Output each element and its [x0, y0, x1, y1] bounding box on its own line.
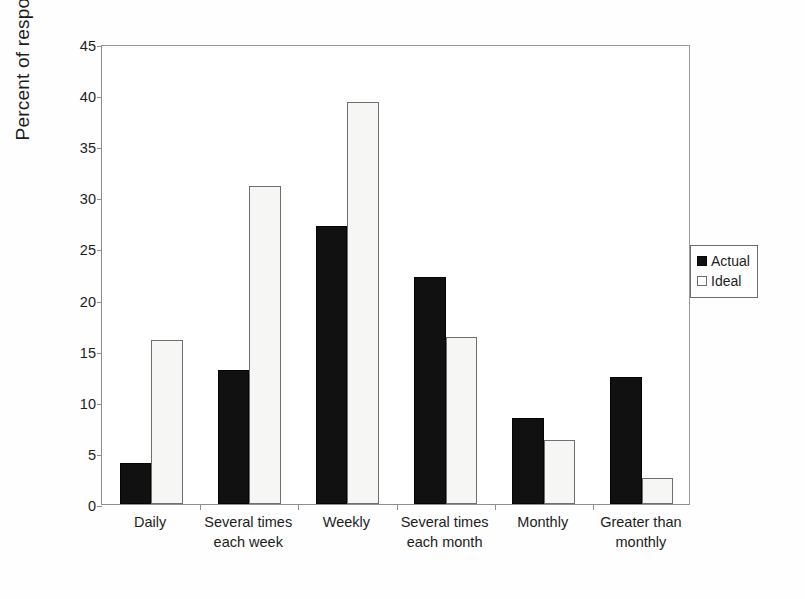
bar-ideal-3	[347, 102, 379, 504]
legend-entry-label: Actual	[711, 253, 750, 269]
bar-actual-4	[414, 277, 446, 504]
y-axis-tick-label: 5	[64, 447, 96, 463]
y-axis-tick-label: 40	[64, 89, 96, 105]
x-axis-tick-mark	[200, 504, 201, 510]
y-axis-tick-mark	[97, 353, 102, 354]
legend-entry-label: Ideal	[711, 273, 741, 289]
bar-actual-5	[512, 418, 544, 504]
x-axis-category-line: monthly	[576, 532, 706, 552]
legend-entry-ideal: Ideal	[697, 271, 750, 291]
x-axis-category-line: Weekly	[323, 514, 370, 530]
y-axis-tick-mark	[97, 148, 102, 149]
x-axis-category-line: Monthly	[517, 514, 568, 530]
x-axis-category-line: Several times	[204, 514, 292, 530]
y-axis-tick-label: 35	[64, 140, 96, 156]
y-axis-tick-mark	[97, 404, 102, 405]
x-axis-category-line: Several times	[401, 514, 489, 530]
y-axis-tick-label: 25	[64, 242, 96, 258]
chart-page: Percent of respondents 05101520253035404…	[0, 0, 805, 599]
bar-actual-1	[120, 463, 152, 504]
chart-legend: Actual Ideal	[690, 245, 758, 298]
bar-actual-6	[610, 377, 642, 504]
y-axis-tick-mark	[97, 199, 102, 200]
x-axis-tick-mark	[593, 504, 594, 510]
y-axis-tick-mark	[97, 97, 102, 98]
y-axis-tick-label: 15	[64, 345, 96, 361]
x-axis-tick-mark	[397, 504, 398, 510]
y-axis-tick-mark	[97, 455, 102, 456]
legend-entry-actual: Actual	[697, 251, 750, 271]
bar-ideal-1	[151, 340, 183, 504]
y-axis-tick-label: 45	[64, 38, 96, 54]
y-axis-tick-label: 20	[64, 294, 96, 310]
bar-ideal-6	[642, 478, 674, 504]
bar-ideal-2	[249, 186, 281, 504]
bar-actual-3	[316, 226, 348, 504]
y-axis-tick-label: 30	[64, 191, 96, 207]
x-axis-category-line: Greater than	[600, 514, 681, 530]
x-axis-category-line: Daily	[134, 514, 166, 530]
bar-ideal-4	[446, 337, 478, 504]
x-axis-category-label: Greater thanmonthly	[576, 512, 706, 552]
y-axis-tick-mark	[97, 250, 102, 251]
x-axis-tick-mark	[298, 504, 299, 510]
x-axis-category-line: each week	[183, 532, 313, 552]
filled-square-icon	[697, 256, 707, 266]
y-axis-tick-mark	[97, 46, 102, 47]
x-axis-category-line: each month	[380, 532, 510, 552]
bar-ideal-5	[544, 440, 576, 504]
y-axis-tick-label: 10	[64, 396, 96, 412]
x-axis-tick-mark	[495, 504, 496, 510]
outlined-square-icon	[697, 276, 707, 286]
plot-area: 051015202530354045	[101, 45, 690, 505]
bar-actual-2	[218, 370, 250, 504]
y-axis-tick-mark	[97, 302, 102, 303]
y-axis-tick-mark	[97, 506, 102, 507]
y-axis-title: Percent of respondents	[12, 0, 52, 180]
